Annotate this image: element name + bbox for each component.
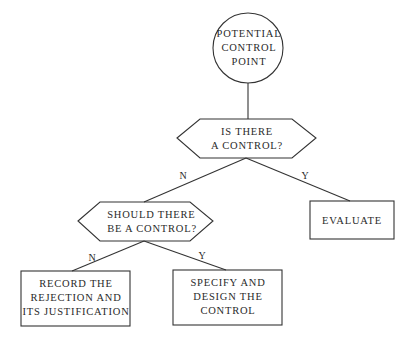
edge-q2-record [72, 241, 144, 271]
edge-q2-specify [144, 241, 226, 270]
edge-q1-q2 [144, 158, 246, 202]
node-q1-label: IS THERE A CONTROL? [211, 125, 283, 153]
edge-q1-evaluate-label: Y [301, 170, 308, 181]
node-evaluate-label: EVALUATE [322, 214, 382, 228]
node-start-label: POTENTIAL CONTROL POINT [217, 27, 282, 69]
edge-q1-q2-label: N [179, 170, 186, 181]
flowchart: POTENTIAL CONTROL POINT IS THERE A CONTR… [0, 0, 415, 349]
node-specify-label: SPECIFY AND DESIGN THE CONTROL [190, 276, 265, 318]
edge-q1-evaluate [246, 158, 350, 201]
node-record-label: RECORD THE REJECTION AND ITS JUSTIFICATI… [22, 277, 129, 319]
edge-q2-specify-label: Y [198, 250, 205, 261]
edge-q2-record-label: N [88, 252, 95, 263]
node-q2-label: SHOULD THERE BE A CONTROL? [107, 208, 197, 236]
